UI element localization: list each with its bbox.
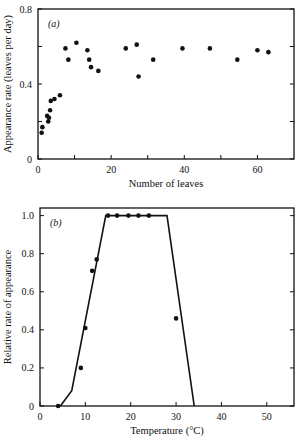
- x-tick-label: 60: [252, 164, 262, 175]
- data-point: [174, 316, 179, 321]
- x-tick-label: 20: [106, 164, 116, 175]
- data-point: [63, 46, 68, 51]
- x-tick-label: 0: [38, 411, 43, 422]
- x-axis-label: Temperature (°C): [130, 425, 204, 437]
- data-point: [266, 50, 271, 55]
- plot-frame: [40, 208, 294, 406]
- data-point: [39, 130, 44, 135]
- y-tick-label: 0.2: [22, 362, 35, 373]
- data-point: [48, 108, 53, 113]
- data-point: [147, 213, 152, 218]
- data-point: [115, 213, 120, 218]
- y-tick-label: 1.0: [22, 210, 35, 221]
- data-point: [180, 46, 185, 51]
- data-point: [136, 74, 141, 79]
- panel-label: (a): [48, 18, 60, 30]
- data-point: [89, 65, 94, 70]
- data-point: [85, 48, 90, 53]
- data-point: [40, 125, 45, 130]
- data-point: [74, 40, 79, 45]
- y-tick-label: 0.8: [22, 248, 35, 259]
- x-tick-label: 20: [126, 411, 136, 422]
- series-line: [60, 216, 194, 406]
- x-tick-label: 40: [216, 411, 226, 422]
- y-tick-label: 0.8: [20, 4, 33, 15]
- plot-frame: [38, 9, 294, 159]
- data-point: [58, 93, 63, 98]
- data-point: [56, 404, 61, 409]
- data-point: [106, 213, 111, 218]
- x-tick-label: 30: [171, 411, 181, 422]
- x-tick-label: 40: [179, 164, 189, 175]
- data-point: [255, 48, 260, 53]
- y-axis-label: Appearance rate (leaves per day): [2, 14, 14, 153]
- data-point: [123, 46, 128, 51]
- data-point: [79, 366, 84, 371]
- data-point: [52, 97, 57, 102]
- y-tick-label: 0.6: [22, 286, 35, 297]
- chart-b: 0102030405000.20.40.60.81.0(b)Temperatur…: [2, 208, 294, 437]
- data-point: [87, 57, 92, 62]
- panel-label: (b): [50, 217, 62, 229]
- data-point: [90, 269, 95, 274]
- data-point: [235, 57, 240, 62]
- data-point: [151, 57, 156, 62]
- data-point: [66, 57, 71, 62]
- figure: 020406000.40.8(a)Number of leavesAppeara…: [0, 0, 301, 442]
- x-tick-label: 10: [80, 411, 90, 422]
- y-tick-label: 0: [29, 401, 34, 412]
- chart-a: 020406000.40.8(a)Number of leavesAppeara…: [2, 4, 294, 190]
- data-point: [136, 213, 141, 218]
- data-point: [94, 257, 99, 262]
- data-point: [134, 42, 139, 47]
- data-point: [47, 115, 52, 120]
- x-axis-label: Number of leaves: [129, 178, 204, 189]
- y-tick-label: 0: [27, 154, 32, 165]
- data-point: [126, 213, 131, 218]
- data-point: [208, 46, 213, 51]
- y-tick-label: 0.4: [22, 324, 35, 335]
- y-axis-label: Relative rate of appearance: [2, 249, 13, 364]
- x-tick-label: 50: [262, 411, 272, 422]
- data-point: [96, 69, 101, 74]
- data-point: [83, 326, 88, 331]
- x-tick-label: 0: [36, 164, 41, 175]
- y-tick-label: 0.4: [20, 79, 33, 90]
